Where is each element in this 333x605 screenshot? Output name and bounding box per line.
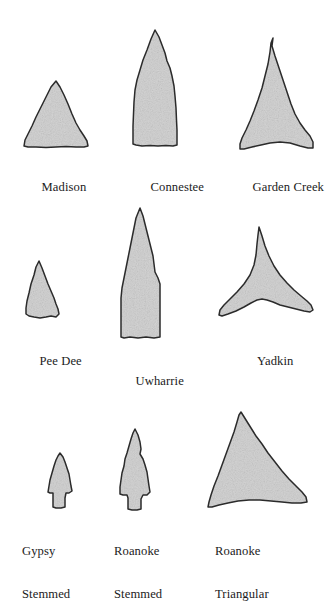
point-label-roanoke-triangular: Roanoke Triangular (215, 515, 269, 605)
point-label-uwharrie-line1: Uwharrie (136, 374, 184, 388)
uwharrie-point-illustration (112, 204, 174, 346)
point-label-roanoke-triangular-line1: Roanoke (215, 544, 269, 558)
point-label-madison-line1: Madison (42, 180, 87, 194)
connestee-point-illustration (126, 26, 188, 154)
point-label-yadkin-line1: Yadkin (257, 354, 293, 368)
point-cell-madison: Madison (0, 0, 110, 190)
point-label-roanoke-stemmed-line1: Roanoke (114, 544, 162, 558)
point-label-pee-dee: Pee Dee (20, 340, 82, 383)
point-label-garden-creek-line1: Garden Creek (253, 180, 324, 194)
point-label-gypsy-stemmed-line2: Stemmed (22, 587, 70, 601)
roanoke-stemmed-point-illustration (110, 424, 166, 516)
madison-point-illustration (18, 78, 94, 156)
point-label-pee-dee-line1: Pee Dee (40, 354, 82, 368)
point-label-yadkin: Yadkin (238, 340, 293, 383)
point-label-uwharrie: Uwharrie (116, 360, 184, 403)
pee-dee-point-illustration (18, 256, 78, 328)
point-label-garden-creek: Garden Creek (233, 166, 324, 209)
point-label-connestee: Connestee (131, 166, 204, 209)
point-label-gypsy-stemmed-line1: Gypsy (22, 544, 70, 558)
point-label-roanoke-stemmed: Roanoke Stemmed (114, 515, 162, 605)
point-label-roanoke-stemmed-line2: Stemmed (114, 587, 162, 601)
point-label-connestee-line1: Connestee (151, 180, 204, 194)
point-label-roanoke-triangular-line2: Triangular (215, 587, 269, 601)
roanoke-triangular-point-illustration (200, 406, 322, 516)
point-label-gypsy-stemmed: Gypsy Stemmed (22, 515, 70, 605)
point-label-madison: Madison (22, 166, 86, 209)
garden-creek-point-illustration (232, 34, 322, 158)
gypsy-stemmed-point-illustration (42, 448, 88, 514)
yadkin-point-illustration (212, 222, 320, 332)
